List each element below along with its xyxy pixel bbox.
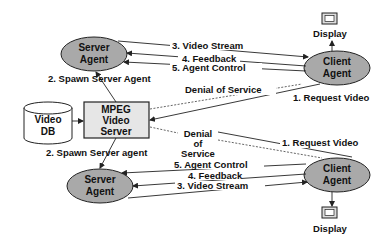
client-agent-top: Client Agent xyxy=(304,51,370,85)
server-agent-bottom-label-2: Agent xyxy=(86,186,115,197)
edge-denial-bottom-a xyxy=(150,127,178,133)
edge-label-agent-control-bottom: 5. Agent Control xyxy=(174,159,248,170)
edge-label-agent-control-top: 5. Agent Control xyxy=(172,62,246,73)
edge-label-denial-top: Denial of Service xyxy=(185,84,262,95)
mpeg-video-server: MPEG Video Server xyxy=(84,102,149,138)
architecture-diagram: Server Agent Client Agent Display 3. Vid… xyxy=(0,0,392,247)
client-agent-bottom-label-2: Agent xyxy=(323,175,352,186)
client-agent-bottom: Client Agent xyxy=(304,158,370,192)
edge-label-spawn-top: 2. Spawn Server Agent xyxy=(48,73,151,84)
client-agent-bottom-label-1: Client xyxy=(323,163,351,174)
monitor-icon xyxy=(322,207,337,218)
video-db-label-1: Video xyxy=(34,114,61,125)
display-top-label: Display xyxy=(313,28,348,39)
mpeg-server-label-2: Video xyxy=(102,115,129,126)
server-agent-bottom: Server Agent xyxy=(67,169,133,203)
monitor-icon xyxy=(322,13,337,24)
client-agent-top-label-1: Client xyxy=(323,56,351,67)
edge-label-request-top: 1. Request Video xyxy=(293,92,370,103)
edge-label-video-stream-bottom: 3. Video Stream xyxy=(177,180,248,191)
video-db: Video DB xyxy=(24,102,72,144)
edge-label-video-stream-top: 3. Video Stream xyxy=(172,40,243,51)
server-agent-bottom-label-1: Server xyxy=(84,174,115,185)
display-bottom: Display xyxy=(313,192,348,234)
video-db-label-2: DB xyxy=(41,126,55,137)
server-agent-top-label-2: Agent xyxy=(80,54,109,65)
display-top: Display xyxy=(313,13,348,51)
mpeg-server-label-3: Server xyxy=(100,126,131,137)
server-agent-top-label-1: Server xyxy=(78,42,109,53)
server-agent-top: Server Agent xyxy=(61,37,127,71)
mpeg-server-label-1: MPEG xyxy=(101,104,131,115)
edge-label-spawn-bottom: 2. Spawn Server agent xyxy=(46,147,148,158)
client-agent-top-label-2: Agent xyxy=(323,68,352,79)
edge-label-request-bottom: 1. Request Video xyxy=(282,137,359,148)
display-bottom-label: Display xyxy=(313,223,348,234)
edge-label-denial-bottom-3: Service xyxy=(181,148,215,159)
